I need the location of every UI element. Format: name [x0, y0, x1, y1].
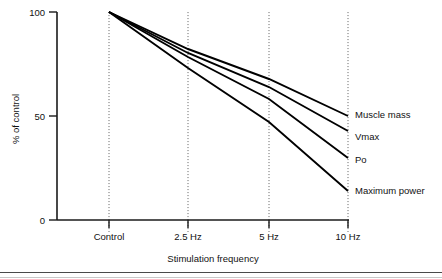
y-tick-label-0: 0: [40, 215, 45, 226]
series-label-maximum-power: Maximum power: [355, 185, 425, 196]
x-tick-label-10hz: 10 Hz: [336, 231, 361, 242]
y-tick-label-100: 100: [29, 7, 45, 18]
series-line-vmax: [109, 12, 348, 131]
series-line-po: [109, 12, 348, 158]
y-tick-label-50: 50: [34, 111, 45, 122]
x-tick-label-2-5hz: 2.5 Hz: [174, 231, 202, 242]
series-label-po: Po: [355, 154, 367, 165]
footer-rule-primary: [0, 272, 442, 273]
series-label-muscle-mass: Muscle mass: [355, 109, 411, 120]
y-axis-title: % of control: [10, 94, 21, 144]
line-chart: 100 50 0 Control 2.5 Hz 5 Hz 10 Hz % of …: [0, 0, 442, 279]
series-line-maximum-power: [109, 12, 348, 191]
footer-rule-secondary: [0, 277, 442, 278]
x-tick-label-control: Control: [94, 231, 125, 242]
x-axis-title: Stimulation frequency: [167, 253, 259, 264]
x-tick-label-5hz: 5 Hz: [259, 231, 279, 242]
figure-container: 100 50 0 Control 2.5 Hz 5 Hz 10 Hz % of …: [0, 0, 442, 279]
series-line-muscle-mass: [109, 12, 348, 116]
series-label-vmax: Vmax: [355, 131, 380, 142]
